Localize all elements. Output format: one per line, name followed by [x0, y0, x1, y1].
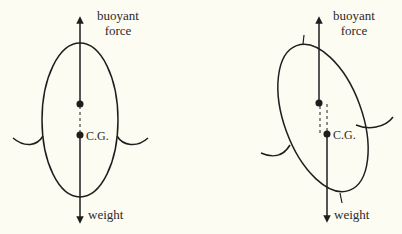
buoyant-force-label: buoyant force — [324, 9, 384, 37]
buoyant-label-line2: force — [88, 24, 148, 37]
buoyant-label-line1: buoyant — [88, 9, 148, 22]
hull-ellipse — [260, 32, 386, 203]
buoyant-label-line1: buoyant — [324, 9, 384, 22]
waterline-left — [13, 136, 43, 145]
cg-label: C.G. — [86, 130, 109, 143]
buoyant-label-line2: force — [324, 24, 384, 37]
keel-tick — [340, 193, 342, 203]
waterline-right — [117, 136, 148, 145]
waterline-right — [356, 117, 393, 128]
center-of-buoyancy-dot — [316, 100, 322, 106]
mast-top-tick — [303, 35, 304, 44]
waterline-left — [261, 145, 290, 156]
tilted-figure — [260, 20, 393, 219]
weight-label: weight — [334, 208, 369, 221]
center-of-buoyancy-dot — [77, 101, 83, 107]
cg-label: C.G. — [333, 129, 356, 142]
upright-figure — [13, 20, 148, 220]
buoyant-force-label: buoyant force — [88, 9, 148, 37]
center-of-gravity-dot — [77, 132, 83, 138]
weight-label: weight — [88, 208, 123, 221]
center-of-gravity-dot — [324, 131, 330, 137]
